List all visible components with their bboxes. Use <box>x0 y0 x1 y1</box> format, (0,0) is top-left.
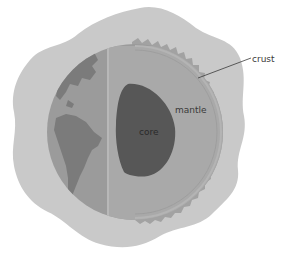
label-mantle: mantle <box>175 105 207 115</box>
label-core: core <box>139 127 159 137</box>
label-crust: crust <box>252 54 275 64</box>
earth-layers-diagram: crust mantle core <box>0 0 282 254</box>
